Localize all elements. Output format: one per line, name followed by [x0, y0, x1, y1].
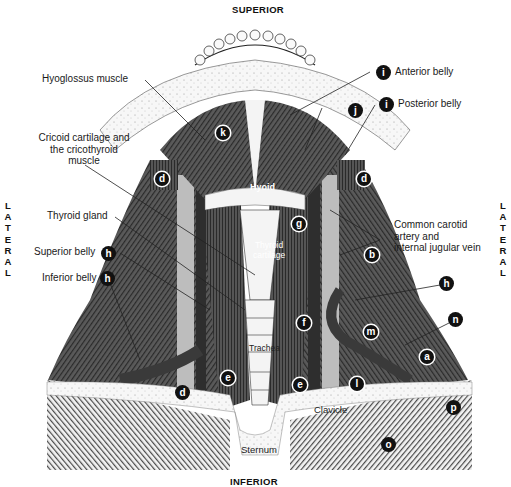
label-anterior-belly: Anterior belly — [395, 66, 453, 78]
label-cricoid-cartilage: Cricoid cartilage and the cricothyroid m… — [20, 132, 148, 167]
badge-m: m — [364, 325, 378, 339]
label-superior-belly: Superior belly — [34, 246, 95, 258]
orientation-inferior: INFERIOR — [230, 476, 278, 487]
badge-p: p — [446, 400, 461, 415]
orientation-superior: SUPERIOR — [232, 4, 284, 15]
badge-n: n — [448, 312, 463, 327]
label-hyoid: Hyoid — [250, 182, 275, 192]
badge-i-posterior-belly: i — [379, 97, 394, 112]
orientation-lateral-right: LATERAL — [498, 200, 508, 278]
badge-a: a — [420, 350, 434, 364]
badge-j: j — [348, 103, 363, 118]
badge-l: l — [350, 377, 364, 391]
label-sternum: Sternum — [241, 444, 277, 455]
badge-h-superior-belly: h — [101, 246, 116, 261]
badge-d-left-lower: d — [175, 385, 190, 400]
label-common-carotid: Common carotid artery and internal jugul… — [394, 219, 481, 254]
badge-f: f — [297, 316, 311, 330]
badge-k: k — [216, 126, 230, 140]
label-hyoglossus-muscle: Hyoglossus muscle — [42, 73, 128, 85]
badge-e-left: e — [221, 371, 235, 385]
label-posterior-belly: Posterior belly — [398, 98, 461, 110]
badge-h-right: h — [439, 276, 454, 291]
badge-g: g — [292, 217, 306, 231]
badge-i-anterior-belly: i — [376, 65, 391, 80]
label-trachea: Trachea — [249, 343, 280, 353]
label-inferior-belly: Inferior belly — [42, 272, 96, 284]
label-thyroid-cartilage: Thyroid cartilage — [253, 240, 285, 260]
badge-d-right-upper: d — [357, 172, 371, 186]
orientation-lateral-left: LATERAL — [3, 200, 13, 278]
label-thyroid-gland: Thyroid gland — [47, 210, 108, 222]
badge-d-left-upper: d — [155, 172, 169, 186]
badge-b: b — [365, 248, 379, 262]
badge-o: o — [381, 437, 396, 452]
label-clavicle: Clavicle — [314, 404, 347, 415]
badge-h-inferior-belly: h — [100, 271, 115, 286]
badge-e-right: e — [293, 378, 307, 392]
